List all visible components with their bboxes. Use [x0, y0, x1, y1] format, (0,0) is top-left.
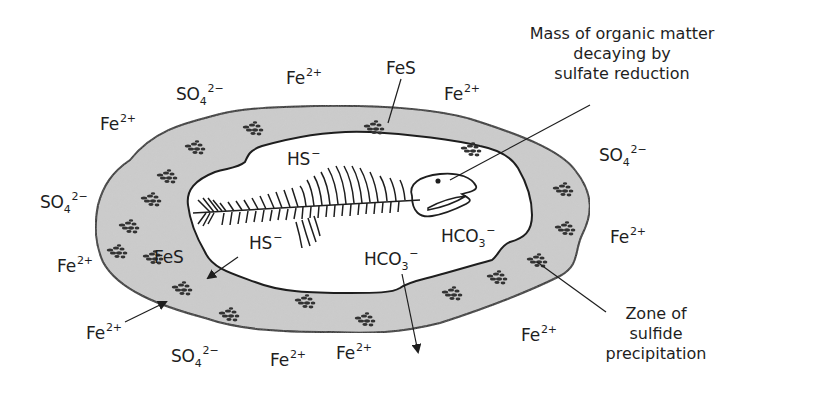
zone-line-1: Zone of: [592, 304, 720, 324]
zone-line-2: sulfide: [592, 324, 720, 344]
hs-ion-inner: HS−: [249, 235, 282, 252]
organic-matter-line-2: decaying by: [472, 44, 772, 64]
organic-matter-line-3: sulfate reduction: [472, 64, 772, 84]
fe-ion-bottom-left: Fe2+: [86, 325, 122, 342]
fe-ion-top-center: Fe2+: [286, 70, 322, 87]
organic-matter-line-1: Mass of organic matter: [472, 24, 772, 44]
so4-ion-bottom: SO42−: [171, 348, 218, 365]
zone-line-3: precipitation: [592, 344, 720, 364]
fe-ion-right: Fe2+: [610, 229, 646, 246]
so4-ion-left: SO42−: [40, 194, 87, 211]
fe-ion-bottom-2: Fe2+: [336, 345, 372, 362]
hco3-ion-right: HCO3−: [441, 228, 495, 245]
fe-arrow: [125, 302, 166, 322]
so4-ion-top: SO42−: [176, 86, 223, 103]
fe-ion-bottom-1: Fe2+: [270, 352, 306, 369]
hco3-ion-center: HCO3−: [364, 251, 418, 268]
fe-ion-bottom-right: Fe2+: [521, 327, 557, 344]
fe-ion-left: Fe2+: [57, 258, 93, 275]
sulfide-precipitation-diagram: Mass of organic matter decaying by sulfa…: [0, 0, 826, 403]
fe-ion-top-right: Fe2+: [444, 86, 480, 103]
fes-label-top: FeS: [386, 60, 416, 77]
fe-ion-top-left: Fe2+: [100, 116, 136, 133]
organic-matter-callout: Mass of organic matter decaying by sulfa…: [472, 24, 772, 84]
zone-callout: Zone of sulfide precipitation: [592, 304, 720, 364]
hs-ion-top: HS−: [287, 151, 320, 168]
so4-ion-right: SO42−: [599, 147, 646, 164]
fes-label-inner: FeS: [154, 249, 184, 266]
